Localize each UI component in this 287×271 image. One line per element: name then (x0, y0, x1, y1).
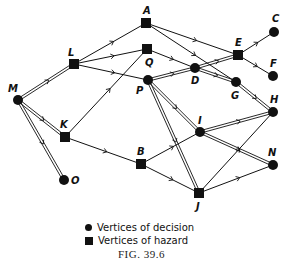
hazard-vertex-icon (85, 237, 93, 245)
decision-vertex-O (59, 175, 69, 185)
decision-vertex-I (195, 127, 205, 137)
node-label-F: F (270, 58, 277, 69)
decision-vertex-icon (85, 224, 92, 231)
hazard-vertex-K (60, 132, 70, 142)
hazard-vertex-J (194, 188, 204, 198)
legend: Vertices of decision Vertices of hazard (85, 221, 194, 247)
node-label-N: N (268, 147, 277, 158)
node-label-I: I (198, 115, 202, 126)
edge-J-H (199, 112, 273, 193)
hazard-vertex-B (136, 159, 146, 169)
hazard-vertex-L (69, 59, 79, 69)
node-label-D: D (191, 75, 199, 86)
edge-M-O (17, 101, 63, 181)
legend-hazard: Vertices of hazard (85, 234, 194, 247)
edge-E-C (238, 32, 274, 55)
hazard-vertex-Q (142, 44, 152, 54)
edge-J-N (199, 165, 273, 193)
edge-P-I (149, 79, 201, 131)
node-label-H: H (270, 94, 279, 105)
decision-vertex-H (268, 107, 278, 117)
node-label-P: P (136, 85, 144, 96)
edge-M-L (19, 65, 75, 101)
edge-Q-D (147, 49, 195, 68)
hazard-vertex-A (141, 18, 151, 28)
node-labels: ACEFLQDGPMHIKBNOJ (8, 5, 280, 212)
edge-E-F (238, 55, 273, 76)
edge-M-O (19, 99, 65, 179)
node-label-Q: Q (145, 57, 154, 68)
edge-L-P (74, 64, 148, 80)
edge-I-N (200, 131, 273, 164)
node-label-C: C (272, 13, 280, 24)
edge-A-E (146, 23, 238, 55)
edge-K-B (65, 137, 141, 164)
node-label-K: K (60, 119, 69, 130)
node-label-A: A (142, 5, 151, 16)
decision-vertex-G (231, 77, 241, 87)
edge-A-G (146, 23, 236, 82)
edge-B-J (141, 164, 199, 193)
legend-decision: Vertices of decision (85, 221, 194, 234)
decision-vertex-P (143, 75, 153, 85)
edge-B-I (141, 132, 200, 164)
edge-L-Q (74, 49, 147, 64)
edge-L-A (74, 23, 146, 64)
edge-M-K (17, 101, 64, 138)
node-label-B: B (137, 146, 145, 157)
node-label-L: L (68, 47, 74, 58)
legend-hazard-label: Vertices of hazard (98, 234, 188, 247)
edge-M-K (19, 99, 66, 136)
node-label-M: M (8, 83, 18, 94)
node-label-J: J (194, 201, 200, 212)
edge-M-L (17, 63, 73, 99)
decision-vertex-M (13, 95, 23, 105)
decision-vertex-C (269, 27, 279, 37)
decision-hazard-graph: ACEFLQDGPMHIKBNOJ (0, 0, 287, 220)
decision-vertex-N (268, 160, 278, 170)
node-label-O: O (71, 175, 80, 186)
decision-vertex-D (190, 63, 200, 73)
node-label-E: E (235, 37, 242, 48)
edge-P-I (147, 81, 199, 133)
node-label-G: G (231, 90, 239, 101)
figure-caption: FIG. 39.6 (118, 248, 165, 260)
decision-vertex-F (268, 71, 278, 81)
edge-I-H (200, 111, 273, 131)
hazard-vertex-E (233, 50, 243, 60)
legend-decision-label: Vertices of decision (97, 221, 194, 234)
